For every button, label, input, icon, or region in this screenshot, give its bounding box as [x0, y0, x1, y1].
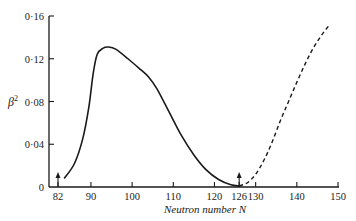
data-series: [64, 25, 330, 186]
x-tick-label: 126: [231, 191, 247, 202]
x-tick-label: 110: [166, 191, 181, 202]
x-tick-label: 150: [330, 191, 346, 202]
y-tick-label: 0·08: [25, 97, 44, 108]
y-axis-title: β2: [7, 94, 18, 109]
measured-curve: [64, 47, 239, 186]
x-tick-label: 140: [289, 191, 305, 202]
deformation-chart: 8290100110120126130140150 00·040·080·120…: [0, 0, 356, 221]
arrow-head-icon: [237, 172, 242, 178]
x-axis-title: Neutron number N: [163, 203, 247, 215]
x-tick-label: 90: [86, 191, 97, 202]
y-tick-label: 0: [39, 182, 44, 193]
x-axis-ticks: 8290100110120126130140150: [53, 182, 346, 202]
y-tick-label: 0·04: [25, 139, 45, 150]
magic-number-arrows: [56, 172, 242, 187]
extrapolated-curve: [239, 25, 330, 186]
y-tick-label: 0·16: [25, 11, 44, 22]
x-tick-label: 120: [207, 191, 223, 202]
arrow-head-icon: [56, 172, 61, 178]
axes: [49, 16, 339, 187]
x-tick-label: 100: [124, 191, 140, 202]
x-tick-label: 82: [53, 191, 64, 202]
y-tick-label: 0·12: [25, 54, 44, 65]
x-tick-label: 130: [248, 191, 264, 202]
